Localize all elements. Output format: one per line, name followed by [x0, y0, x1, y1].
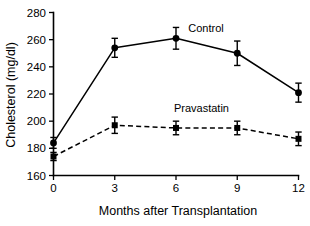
- x-tick-label: 6: [173, 182, 179, 194]
- series-annotations: ControlPravastatin: [174, 22, 229, 114]
- axis-tick-labels: 160180200220240260280036912: [27, 7, 305, 194]
- x-tick-label: 3: [112, 182, 118, 194]
- x-tick-label: 9: [234, 182, 240, 194]
- y-tick-label: 200: [27, 115, 46, 127]
- y-tick-label: 180: [27, 142, 46, 154]
- y-tick-label: 240: [27, 61, 46, 73]
- cholesterol-line-chart: 160180200220240260280036912 ControlPrava…: [0, 0, 310, 226]
- data-point-pravastatin: [173, 125, 179, 131]
- x-tick-label: 12: [292, 182, 305, 194]
- data-point-pravastatin: [234, 125, 240, 131]
- data-point-control: [234, 50, 241, 57]
- series-label-pravastatin: Pravastatin: [174, 102, 229, 114]
- data-point-pravastatin: [51, 153, 57, 159]
- y-tick-label: 160: [27, 170, 46, 182]
- data-point-control: [173, 35, 180, 42]
- data-series: [50, 27, 302, 160]
- y-tick-label: 260: [27, 34, 46, 46]
- chart-svg: 160180200220240260280036912 ControlPrava…: [0, 0, 310, 226]
- data-point-control: [111, 44, 118, 51]
- data-point-pravastatin: [296, 136, 302, 142]
- data-point-pravastatin: [112, 122, 118, 128]
- data-point-control: [295, 89, 302, 96]
- x-tick-label: 0: [50, 182, 56, 194]
- data-point-control: [50, 140, 57, 147]
- series-label-control: Control: [188, 22, 223, 34]
- y-tick-label: 220: [27, 88, 46, 100]
- y-axis-title: Cholesterol (mg/dl): [4, 42, 18, 148]
- x-axis-title: Months after Transplantation: [99, 204, 257, 218]
- y-tick-label: 280: [27, 7, 46, 19]
